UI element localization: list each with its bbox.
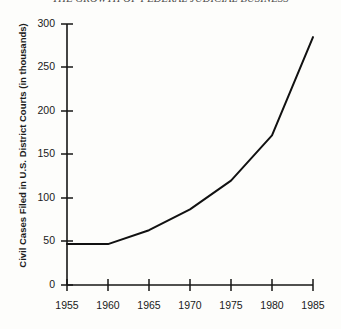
data-series-line xyxy=(67,37,313,244)
y-tick-label: 300 xyxy=(37,17,55,29)
y-tick-label: 200 xyxy=(37,104,55,116)
x-tick-label: 1960 xyxy=(96,299,120,311)
x-tick-label: 1985 xyxy=(301,299,325,311)
x-tick-label: 1975 xyxy=(219,299,243,311)
y-tick-label: 150 xyxy=(37,147,55,159)
x-axis-tick-labels: 1955 1960 1965 1970 1975 1980 1985 xyxy=(55,299,325,311)
x-tick-label: 1955 xyxy=(55,299,79,311)
y-tick-label: 0 xyxy=(49,278,55,290)
x-tick-label: 1980 xyxy=(260,299,284,311)
y-tick-label: 50 xyxy=(43,234,55,246)
y-axis-tick-labels: 300 250 200 150 100 50 0 xyxy=(37,17,55,290)
chart-figure: THE GROWTH OF FEDERAL JUDICIAL BUSINESS … xyxy=(0,0,341,329)
line-chart-plot: 300 250 200 150 100 50 0 1955 1960 1965 … xyxy=(0,0,341,329)
x-tick-label: 1970 xyxy=(178,299,202,311)
y-tick-label: 250 xyxy=(37,60,55,72)
x-tick-label: 1965 xyxy=(137,299,161,311)
y-tick-label: 100 xyxy=(37,191,55,203)
